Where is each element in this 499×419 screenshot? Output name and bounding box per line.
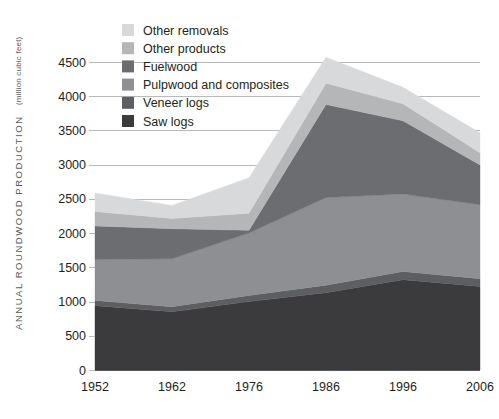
x-tick-1986: 1986 [312, 380, 340, 394]
roundwood-production-chart: 050010001500200025003000350040004500 195… [0, 0, 499, 419]
y-tick-1500: 1500 [58, 261, 86, 275]
legend-label-other-products: Other products [143, 42, 226, 56]
y-tick-4500: 4500 [58, 56, 86, 70]
legend-swatch-saw-logs [122, 115, 134, 127]
x-tick-2006: 2006 [466, 380, 494, 394]
legend-swatch-fuelwood [122, 60, 134, 72]
y-tick-1000: 1000 [58, 295, 86, 309]
x-tick-1962: 1962 [158, 380, 186, 394]
legend-swatch-other-removals [122, 24, 134, 36]
x-tick-1996: 1996 [389, 380, 417, 394]
x-tick-1976: 1976 [235, 380, 263, 394]
y-tick-3500: 3500 [58, 124, 86, 138]
y-tick-2500: 2500 [58, 192, 86, 206]
legend-label-other-removals: Other removals [143, 24, 228, 38]
y-axis-title-units: (million cubic feet) [14, 36, 23, 105]
y-tick-0: 0 [79, 364, 86, 378]
legend-swatch-other-products [122, 42, 134, 54]
y-axis-title-text: ANNUAL ROUNDWOOD PRODUCTION [13, 115, 24, 330]
x-tick-1952: 1952 [81, 380, 109, 394]
legend-label-veneer-logs: Veneer logs [143, 96, 209, 110]
legend-label-fuelwood: Fuelwood [143, 60, 197, 74]
y-tick-2000: 2000 [58, 227, 86, 241]
y-tick-4000: 4000 [58, 90, 86, 104]
y-tick-3000: 3000 [58, 158, 86, 172]
legend-swatch-veneer-logs [122, 97, 134, 109]
y-tick-500: 500 [65, 329, 86, 343]
legend-label-pulpwood-and-composites: Pulpwood and composites [143, 78, 289, 92]
legend-label-saw-logs: Saw logs [143, 115, 194, 129]
y-axis-title: ANNUAL ROUNDWOOD PRODUCTION (million cub… [13, 36, 24, 330]
chart-canvas: 050010001500200025003000350040004500 195… [0, 0, 499, 419]
legend-swatch-pulpwood-and-composites [122, 79, 134, 91]
